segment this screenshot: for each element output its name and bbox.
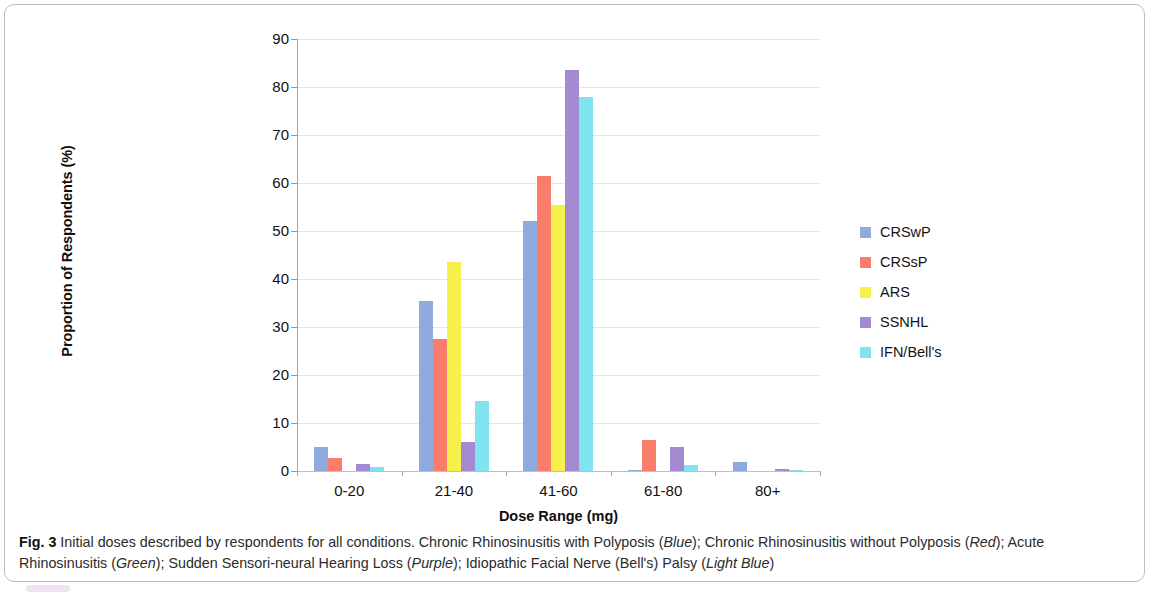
x-tick-label-41-60: 41-60	[506, 482, 611, 499]
bar-21-40-SSNHL	[461, 442, 475, 471]
y-tick-label-40: 40	[233, 270, 289, 287]
x-tick-label-21-40: 21-40	[401, 482, 506, 499]
legend-label-SSNHL: SSNHL	[880, 314, 928, 330]
x-tick-mark-4	[715, 471, 716, 476]
legend-item-ARS: ARS	[860, 277, 1030, 307]
bar-group-41-60	[506, 39, 611, 471]
bar-21-40-CRSwP	[419, 301, 433, 471]
figure-caption-part-6: )	[770, 555, 775, 571]
y-tick-label-90: 90	[233, 30, 289, 47]
bar-21-40-ARS	[447, 262, 461, 471]
legend-label-CRSsP: CRSsP	[880, 254, 928, 270]
figure-caption-color-purple: Purple	[412, 555, 453, 571]
figure-caption-color-green: Green	[116, 555, 156, 571]
bar-0-20-CRSsP	[328, 458, 342, 471]
legend-item-IFN/Bell's: IFN/Bell's	[860, 337, 1030, 367]
bar-group-80+	[715, 39, 820, 471]
y-axis-title: Proportion of Respondents (%)	[59, 121, 75, 381]
figure-page-frame: Proportion of Respondents (%) 0102030405…	[4, 4, 1145, 582]
bar-21-40-IFN/Bell's	[475, 401, 489, 471]
bar-41-60-IFN/Bell's	[579, 97, 593, 471]
bar-group-0-20	[297, 39, 402, 471]
bar-41-60-SSNHL	[565, 70, 579, 471]
bar-0-20-SSNHL	[356, 464, 370, 471]
x-tick-label-80+: 80+	[715, 482, 820, 499]
legend-item-CRSwP: CRSwP	[860, 217, 1030, 247]
x-tick-label-0-20: 0-20	[297, 482, 402, 499]
figure-caption-part-2: ); Chronic Rhinosinusitis without Polypo…	[692, 534, 969, 550]
chart-legend: CRSwPCRSsPARSSSNHLIFN/Bell's	[860, 217, 1030, 367]
x-tick-mark-end	[820, 471, 821, 476]
figure-caption: Fig. 3 Initial doses described by respon…	[19, 532, 1124, 574]
figure-caption-color-light-blue: Light Blue	[706, 555, 770, 571]
y-tick-label-20: 20	[233, 366, 289, 383]
y-tick-label-80: 80	[233, 78, 289, 95]
legend-swatch-SSNHL	[860, 317, 871, 328]
figure-caption-part-4: ); Sudden Sensori-neural Hearing Loss (	[156, 555, 412, 571]
bar-group-61-80	[611, 39, 716, 471]
legend-label-CRSwP: CRSwP	[880, 224, 931, 240]
bar-21-40-CRSsP	[433, 339, 447, 471]
x-tick-mark-1	[402, 471, 403, 476]
legend-swatch-CRSsP	[860, 257, 871, 268]
bar-41-60-ARS	[551, 205, 565, 471]
bar-80+-CRSwP	[733, 462, 747, 471]
legend-label-IFN/Bell's: IFN/Bell's	[880, 344, 942, 360]
bar-61-80-SSNHL	[670, 447, 684, 471]
y-tick-label-10: 10	[233, 414, 289, 431]
bar-group-21-40	[402, 39, 507, 471]
x-axis-title: Dose Range (mg)	[297, 508, 820, 524]
y-axis-ticks: 0102030405060708090	[231, 39, 289, 471]
figure-caption-color-red: Red	[969, 534, 995, 550]
bars-layer	[297, 39, 820, 471]
legend-swatch-IFN/Bell's	[860, 347, 871, 358]
y-tick-label-50: 50	[233, 222, 289, 239]
figure-caption-label: Fig. 3	[19, 534, 56, 550]
figure-caption-part-1: Initial doses described by respondents f…	[56, 534, 663, 550]
x-tick-label-61-80: 61-80	[611, 482, 716, 499]
figure-caption-part-5: ); Idiopathic Facial Nerve (Bell's) Pals…	[453, 555, 706, 571]
x-tick-mark-0	[297, 471, 298, 476]
figure-chart-area: Proportion of Respondents (%) 0102030405…	[5, 5, 1146, 517]
y-tick-label-0: 0	[233, 462, 289, 479]
scan-artifact	[26, 585, 70, 592]
bar-41-60-CRSwP	[523, 221, 537, 471]
bar-41-60-CRSsP	[537, 176, 551, 471]
x-tick-mark-2	[506, 471, 507, 476]
legend-swatch-ARS	[860, 287, 871, 298]
y-tick-label-60: 60	[233, 174, 289, 191]
x-tick-mark-3	[611, 471, 612, 476]
x-axis-line	[297, 471, 820, 472]
legend-swatch-CRSwP	[860, 227, 871, 238]
y-tick-label-30: 30	[233, 318, 289, 335]
y-tick-label-70: 70	[233, 126, 289, 143]
figure-caption-color-blue: Blue	[663, 534, 692, 550]
legend-label-ARS: ARS	[880, 284, 910, 300]
bar-61-80-CRSsP	[642, 440, 656, 471]
legend-item-SSNHL: SSNHL	[860, 307, 1030, 337]
bar-0-20-CRSwP	[314, 447, 328, 471]
legend-item-CRSsP: CRSsP	[860, 247, 1030, 277]
